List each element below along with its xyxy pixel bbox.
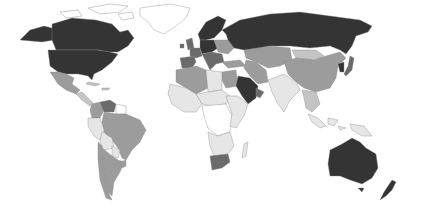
region-greenland — [140, 4, 190, 34]
region-russia — [222, 12, 372, 54]
region-guianas — [116, 104, 126, 114]
region-papua — [350, 124, 372, 136]
region-southeast-asia — [302, 90, 320, 112]
region-australia — [328, 138, 378, 184]
map-svg — [0, 0, 422, 211]
region-france — [190, 48, 202, 58]
region-turkey — [222, 60, 246, 68]
world-choropleth-map — [0, 0, 422, 211]
region-mexico — [50, 72, 80, 94]
region-canada — [52, 18, 134, 52]
region-iberia — [180, 56, 196, 68]
region-egypt-levant — [222, 70, 238, 88]
region-gulf-states — [256, 88, 264, 98]
region-new-zealand — [380, 180, 396, 200]
region-scandinavia — [198, 16, 226, 40]
region-indonesia — [308, 114, 346, 130]
region-central-america — [76, 92, 94, 106]
region-central-africa — [202, 104, 232, 136]
region-southern-africa — [208, 132, 234, 156]
arctic-islands — [60, 4, 134, 20]
region-tasmania — [358, 188, 364, 192]
region-korea — [338, 62, 344, 72]
region-alaska — [20, 26, 54, 42]
region-libya — [206, 70, 222, 92]
region-caribbean — [86, 82, 110, 90]
region-madagascar — [242, 142, 248, 158]
region-italy-balkans — [202, 52, 224, 70]
region-japan — [344, 56, 354, 76]
region-south-africa — [210, 154, 230, 170]
